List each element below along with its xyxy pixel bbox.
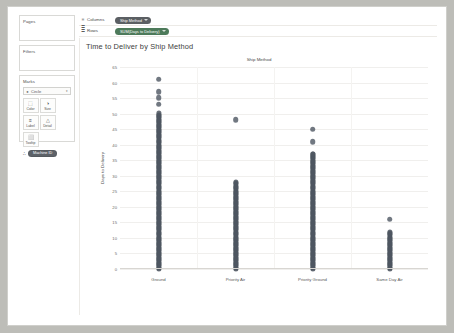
y-tick-label: 10 [112,235,117,240]
data-point[interactable] [156,95,162,101]
chevron-down-icon: ▾ [63,88,70,95]
columns-shelf-label: Columns [87,15,115,25]
y-axis-title: Days to Delivery [100,152,105,184]
y-tick-label: 25 [112,189,117,194]
data-point[interactable] [156,77,162,83]
marks-size-label: Size [44,107,51,111]
rows-shelf-label: Rows [87,26,115,36]
marks-detail-label: Detail [43,124,52,128]
marks-detail-field-row: ∴ Machine ID [20,148,74,157]
pages-card-title: Pages [20,16,74,24]
label-icon: ≡ [29,117,32,123]
y-tick-label: 15 [112,220,117,225]
worksheet-page: Pages Filters Marks ● Circle ▾ ⬚ [7,6,447,326]
mark-type-select[interactable]: ● Circle ▾ [23,87,71,95]
data-point[interactable] [310,126,316,132]
filters-card-title: Filters [20,46,74,54]
circle-icon: ● [24,88,31,95]
y-tick-label: 0 [115,267,117,272]
axis-baseline [120,268,428,269]
marks-tooltip-label: Tooltip [26,141,36,145]
x-tick-label: Priority Ground [298,277,327,282]
marks-color-button[interactable]: ⬚ Color [23,98,39,113]
filters-card[interactable]: Filters [19,45,75,71]
marks-color-label: Color [26,107,34,111]
marks-buttons: ⬚ Color ◑ Size ≡ Label △ [20,95,74,148]
marks-label-button[interactable]: ≡ Label [23,115,39,130]
y-tick-label: 30 [112,173,117,178]
y-tick-label: 40 [112,142,117,147]
rows-shelf[interactable]: ≣ Rows SUM(Days to Delivery) [79,26,437,37]
y-tick-label: 65 [112,65,117,70]
rows-pill-days-to-delivery[interactable]: SUM(Days to Delivery) [115,28,169,35]
columns-shelf[interactable]: ≡ Columns Ship Method [79,15,437,26]
marks-card: Marks ● Circle ▾ ⬚ Color ◑ Size [19,75,75,142]
marks-detail-button[interactable]: △ Detail [40,115,56,130]
x-tick-label: Ground [151,277,165,282]
y-tick-label: 55 [112,96,117,101]
marks-detail-pill[interactable]: Machine ID [28,150,57,157]
marks-label-label: Label [26,124,34,128]
category-separator [351,67,352,269]
columns-pill-ship-method[interactable]: Ship Method [115,17,151,24]
y-tick-label: 5 [115,251,117,256]
detail-field-icon: ∴ [23,150,26,157]
y-tick-label: 20 [112,204,117,209]
worksheet-inner: Pages Filters Marks ● Circle ▾ ⬚ [13,11,443,323]
y-tick-label: 35 [112,158,117,163]
color-icon: ⬚ [28,100,33,106]
left-sidebar: Pages Filters Marks ● Circle ▾ ⬚ [19,15,75,315]
gridline [120,269,428,270]
columns-icon: ≡ [79,15,87,25]
category-separator [197,67,198,269]
data-point[interactable] [156,89,162,95]
detail-icon: △ [46,117,50,123]
x-tick-label: Priority Air [226,277,246,282]
mark-type-value: Circle [31,88,63,95]
tooltip-icon: ⬜ [28,134,34,140]
x-tick-label: Same Day Air [376,277,402,282]
plot-area[interactable]: Days to Delivery 65605550454035302520151… [120,67,428,269]
y-tick-label: 50 [112,111,117,116]
shelf-container: ≡ Columns Ship Method ≣ Rows SUM(Days to… [79,15,437,37]
viz-canvas[interactable]: Time to Deliver by Ship Method Ship Meth… [79,38,438,315]
column-field-header: Ship Method [80,57,438,62]
data-point[interactable] [233,117,239,123]
marks-card-title: Marks [20,76,74,84]
y-tick-label: 60 [112,80,117,85]
marks-tooltip-button[interactable]: ⬜ Tooltip [23,132,39,147]
y-tick-label: 45 [112,127,117,132]
data-point[interactable] [310,139,316,145]
rows-icon: ≣ [79,26,87,36]
marks-size-button[interactable]: ◑ Size [40,98,56,113]
chart-title: Time to Deliver by Ship Method [86,42,193,51]
category-separator [274,67,275,269]
data-point[interactable] [156,102,162,108]
size-icon: ◑ [46,100,49,106]
data-point[interactable] [387,216,393,222]
screenshot-root: Pages Filters Marks ● Circle ▾ ⬚ [0,0,454,333]
pages-card[interactable]: Pages [19,15,75,41]
